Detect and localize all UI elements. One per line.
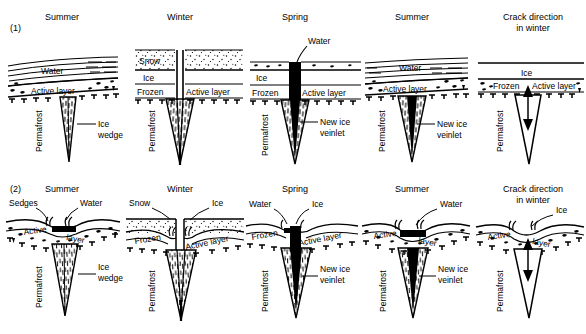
layer-word: layer xyxy=(66,232,86,245)
veinlet-label-line2: veinlet xyxy=(437,130,462,140)
ice-wedge-shape xyxy=(398,96,426,162)
callout-leader xyxy=(152,208,170,219)
water-label: Water xyxy=(80,198,103,208)
panel-title-line1: Crack direction xyxy=(503,184,563,194)
sedges-label: Sedges xyxy=(9,198,38,208)
active-layer-label: Active layer xyxy=(184,233,229,252)
ice-wedge-shape xyxy=(60,97,76,162)
active-layer-label: Active layer xyxy=(532,81,576,91)
permafrost-label: Permafrost xyxy=(34,266,44,308)
permafrost-ice-wedge-diagram: (1) Summer Water xyxy=(0,0,586,334)
ice-wedge-shape xyxy=(281,248,311,318)
panel-title: Winter xyxy=(167,184,193,194)
callout-leader xyxy=(297,46,307,62)
active-word: Active xyxy=(487,229,512,242)
panel-title: Winter xyxy=(167,12,193,22)
frozen-label: Frozen xyxy=(493,81,520,91)
snow-label: Snow xyxy=(129,198,151,208)
panel-r1-crack[interactable]: Crack direction in winter Ice Frozen Act… xyxy=(478,12,584,164)
panel-title: Summer xyxy=(395,184,429,194)
figure-canvas: (1) Summer Water xyxy=(0,0,586,334)
ice-wedge-shape xyxy=(166,250,196,321)
trough-water xyxy=(52,226,76,232)
panel-title-line2: in winter xyxy=(516,23,550,33)
snow-label: Snow xyxy=(139,56,161,66)
panel-r1-spring[interactable]: Spring Ice F xyxy=(250,12,361,164)
surface-line xyxy=(250,62,361,70)
permafrost-label: Permafrost xyxy=(495,270,505,312)
frost-crack xyxy=(177,50,183,100)
ice-wedge-label-line2: wedge xyxy=(97,273,123,283)
sedges-tufts xyxy=(46,217,72,226)
panel-title: Spring xyxy=(282,184,308,194)
ice-wedge-shape xyxy=(398,248,428,318)
active-word: Active xyxy=(23,224,48,237)
permafrost-label: Permafrost xyxy=(260,114,270,156)
water-filled-crack xyxy=(289,62,301,100)
panel-r1-summer-2[interactable]: Summer Water xyxy=(365,12,469,162)
veinlet-label-line1: New ice xyxy=(438,264,469,274)
panel-title-line1: Crack direction xyxy=(503,12,563,22)
ice-wedge-label-line1: Ice xyxy=(98,119,110,129)
panel-r2-winter[interactable]: Winter Snow Ice Frozen xyxy=(126,184,244,321)
active-layer-label: Active layer xyxy=(186,87,230,97)
frozen-label: Frozen xyxy=(251,227,279,241)
permafrost-label: Permafrost xyxy=(260,270,270,312)
panel-r1-winter[interactable]: Winter Snow Ice Frozen Active layer xyxy=(135,12,243,165)
panel-r2-spring[interactable]: Spring Water Ice Frozen Active layer xyxy=(246,184,358,318)
frost-crack xyxy=(176,219,184,250)
row-2: (2) Summer Sedges Water xyxy=(6,184,584,321)
panel-r2-summer[interactable]: Summer Sedges Water xyxy=(6,184,123,316)
frozen-label: Frozen xyxy=(252,88,279,98)
water-label: Water xyxy=(41,66,64,76)
panel-title: Summer xyxy=(45,184,79,194)
row-1: (1) Summer Water xyxy=(8,12,584,165)
veinlet-label-line2: veinlet xyxy=(438,275,463,285)
permafrost-label: Permafrost xyxy=(495,110,505,152)
permafrost-label: Permafrost xyxy=(34,110,44,152)
veinlet-label-line2: veinlet xyxy=(320,128,345,138)
row-1-tag: (1) xyxy=(10,23,21,33)
sedges-tufts xyxy=(395,220,424,229)
ice-label: Ice xyxy=(521,68,533,78)
active-layer-label: Active layer xyxy=(302,88,346,98)
active-layer-label: Active layer xyxy=(383,84,427,94)
water-label: Water xyxy=(308,36,331,46)
panel-r2-summer-2[interactable]: Summer Water xyxy=(362,184,470,318)
callout-leader xyxy=(190,208,209,220)
veinlet-label-line1: New ice xyxy=(320,264,351,274)
panel-title: Spring xyxy=(282,12,308,22)
row-2-tag: (2) xyxy=(10,184,21,194)
ice-label: Ice xyxy=(312,199,324,209)
ice-wedge-label-line2: wedge xyxy=(97,130,123,140)
layer-word: layer xyxy=(418,235,438,248)
ice-wedge-shape xyxy=(166,99,194,165)
panel-r1-summer[interactable]: Summer Water xyxy=(8,12,123,162)
panel-title-line2: in winter xyxy=(516,195,550,205)
active-layer-label: Active layer xyxy=(31,86,75,96)
veinlet-label-line2: veinlet xyxy=(320,275,345,285)
veinlet-label-line1: New ice xyxy=(437,119,468,129)
permafrost-label: Permafrost xyxy=(378,270,388,312)
callout-leader xyxy=(416,209,437,225)
layer-word: layer xyxy=(532,236,552,249)
water-label: Water xyxy=(440,199,463,209)
sedges-tufts xyxy=(509,221,538,230)
ice-label: Ice xyxy=(556,205,568,215)
veinlet-label-line1: New ice xyxy=(320,117,351,127)
ice-wedge-shape xyxy=(52,244,78,316)
permafrost-label: Permafrost xyxy=(147,270,157,312)
callout-leader xyxy=(274,209,287,224)
water-label: Water xyxy=(399,63,422,73)
ice-wedge-shape xyxy=(281,100,309,164)
active-word: Active xyxy=(373,228,398,241)
panel-r2-crack[interactable]: Crack direction in winter Ice xyxy=(476,184,584,318)
ice-label: Ice xyxy=(143,73,155,83)
ice-label: Ice xyxy=(212,198,224,208)
ice-wedge-label-line1: Ice xyxy=(98,262,110,272)
frozen-label: Frozen xyxy=(137,87,164,97)
water-label: Water xyxy=(249,199,272,209)
ice-label: Ice xyxy=(256,73,268,83)
callout-leader xyxy=(66,208,78,220)
permafrost-label: Permafrost xyxy=(377,110,387,152)
